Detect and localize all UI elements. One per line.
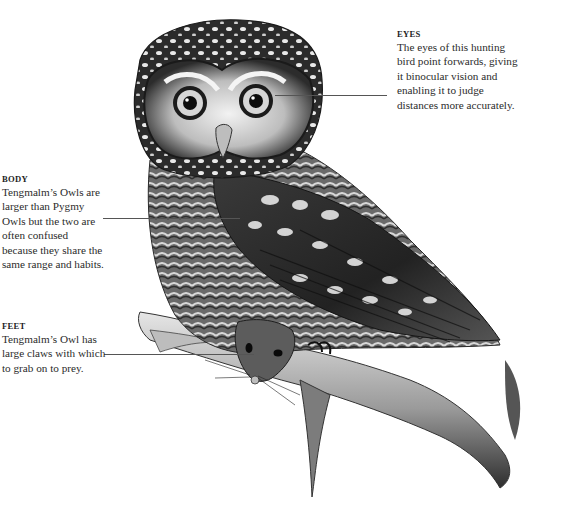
callout-body-heading: BODY [2, 173, 104, 185]
callout-body-text-line: often confused [2, 228, 104, 242]
callout-eyes-heading: EYES [397, 28, 518, 40]
owl-eye-right [239, 84, 273, 118]
callout-body: BODY Tengmalm’s Owls are larger than Pyg… [2, 173, 104, 271]
callout-feet: FEET Tengmalm’s Owl has large claws with… [2, 320, 105, 375]
callout-body-text-line: Owls but the two are [2, 214, 104, 228]
callout-feet-text-line: Tengmalm’s Owl has [2, 332, 105, 346]
callout-eyes-text-line: bird point forwards, giving [397, 54, 518, 68]
callout-feet-heading: FEET [2, 320, 105, 332]
callout-feet-text-line: to grab on to prey. [2, 361, 105, 375]
callout-eyes-text-line: it binocular vision and [397, 69, 518, 83]
callout-eyes: EYES The eyes of this hunting bird point… [397, 28, 518, 112]
callout-body-text-line: same range and habits. [2, 257, 104, 271]
callout-eyes-text-line: The eyes of this hunting [397, 40, 518, 54]
leader-line-body [103, 218, 240, 219]
owl-eye-left [173, 86, 207, 120]
callout-eyes-text-line: enabling it to judge [397, 83, 518, 97]
leader-line-eyes [275, 95, 387, 96]
callout-body-text-line: because they share the [2, 243, 104, 257]
callout-body-text-line: Tengmalm’s Owls are [2, 185, 104, 199]
callout-feet-text-line: large claws with which [2, 346, 105, 360]
callout-eyes-text-line: distances more accurately. [397, 98, 518, 112]
callout-body-text-line: larger than Pygmy [2, 199, 104, 213]
leader-line-feet [104, 354, 254, 355]
